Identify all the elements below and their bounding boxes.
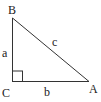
right-triangle-diagram: B C A a b c [0, 0, 101, 102]
side-label-c: c [52, 35, 57, 49]
side-label-a: a [2, 46, 8, 60]
triangle [13, 18, 90, 82]
vertex-label-a: A [89, 82, 98, 96]
side-c [13, 18, 90, 82]
side-label-b: b [44, 85, 50, 99]
right-angle-marker [13, 71, 23, 82]
vertex-label-c: C [2, 86, 10, 100]
vertex-label-b: B [8, 3, 16, 17]
